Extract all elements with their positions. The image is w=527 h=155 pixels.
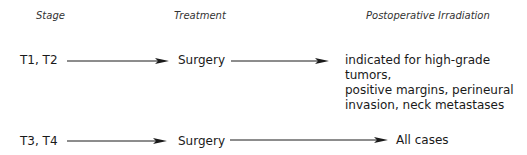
right-arrow-icon	[67, 137, 167, 145]
right-arrow-icon	[231, 57, 329, 65]
header-treatment: Treatment	[174, 10, 226, 21]
postop-indication: indicated for high-grade tumors, positiv…	[345, 53, 527, 113]
postop-line: invasion, neck metastases	[345, 98, 527, 113]
right-arrow-icon	[67, 57, 169, 65]
header-postop-irradiation: Postoperative Irradiation	[366, 10, 490, 21]
treatment-label: Surgery	[178, 134, 225, 149]
treatment-label: Surgery	[178, 53, 225, 68]
postop-indication: All cases	[396, 133, 449, 148]
postop-line: indicated for high-grade tumors,	[345, 53, 527, 83]
header-stage: Stage	[36, 10, 65, 21]
stage-label: T3, T4	[20, 134, 58, 149]
stage-label: T1, T2	[20, 53, 58, 68]
postop-line: positive margins, perineural	[345, 83, 527, 98]
right-arrow-icon	[230, 136, 388, 144]
